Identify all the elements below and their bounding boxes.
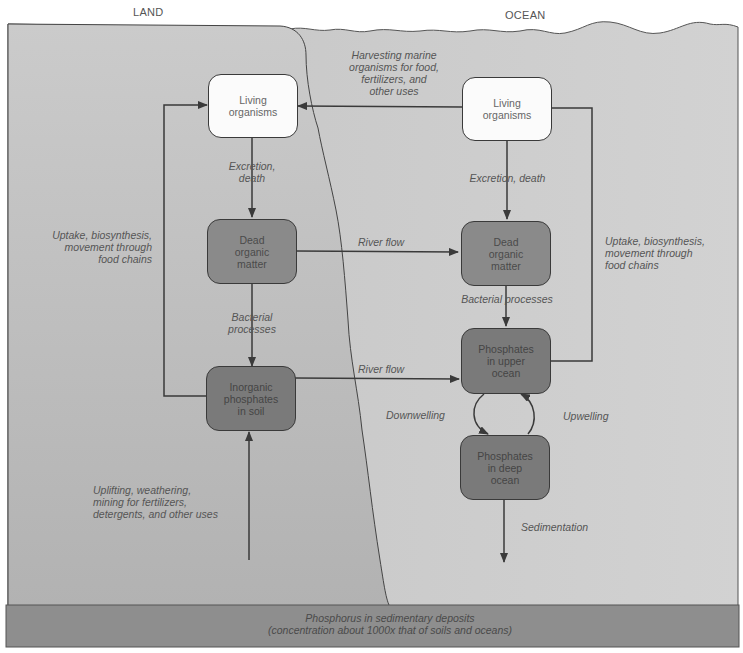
label-land-bacterial: Bacterial processes bbox=[218, 311, 286, 335]
node-ocean-dead-organic-matter: Dead organic matter bbox=[461, 221, 551, 286]
node-land-living-organisms: Living organisms bbox=[208, 74, 298, 138]
node-phosphates-deep-ocean: Phosphates in deep ocean bbox=[460, 435, 550, 500]
label-uplifting: Uplifting, weathering, mining for fertil… bbox=[93, 484, 243, 520]
node-land-dead-organic-matter: Dead organic matter bbox=[207, 219, 297, 284]
label-ocean-uptake: Uptake, biosynthesis, movement through f… bbox=[605, 235, 735, 271]
label-harvesting: Harvesting marine organisms for food, fe… bbox=[338, 49, 450, 97]
sediment-caption-line2: (concentration about 1000x that of soils… bbox=[200, 624, 580, 636]
node-inorganic-phosphates-soil: Inorganic phosphates in soil bbox=[206, 366, 296, 431]
sediment-caption-line1: Phosphorus in sedimentary deposits bbox=[200, 612, 580, 624]
label-ocean-excretion: Excretion, death bbox=[455, 172, 560, 184]
node-phosphates-upper-ocean: Phosphates in upper ocean bbox=[461, 328, 551, 394]
ocean-label: OCEAN bbox=[505, 9, 546, 21]
label-sedimentation: Sedimentation bbox=[521, 521, 588, 533]
label-land-excretion: Excretion, death bbox=[222, 160, 282, 184]
label-downwelling: Downwelling bbox=[386, 409, 445, 421]
label-river-flow-1: River flow bbox=[358, 236, 404, 248]
label-river-flow-2: River flow bbox=[358, 363, 404, 375]
label-ocean-bacterial: Bacterial processes bbox=[452, 293, 562, 305]
diagram-canvas bbox=[0, 0, 743, 653]
node-ocean-living-organisms: Living organisms bbox=[462, 77, 552, 141]
land-label: LAND bbox=[133, 6, 164, 18]
label-upwelling: Upwelling bbox=[563, 410, 609, 422]
label-land-uptake: Uptake, biosynthesis, movement through f… bbox=[30, 229, 152, 265]
